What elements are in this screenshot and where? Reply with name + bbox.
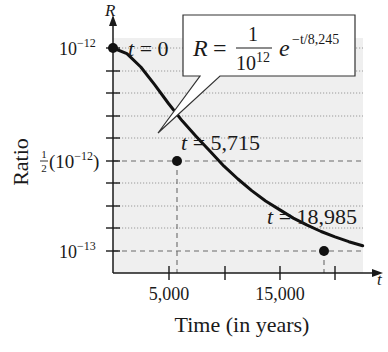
point-label-t5715: t = 5,715: [181, 130, 260, 155]
point-t0: [108, 43, 118, 53]
point-t5715: [172, 156, 182, 166]
x-axis-title: Time (in years): [175, 312, 310, 337]
equation-exponent: −t/8,245: [292, 32, 339, 47]
point-label-t18985: t = 18,985: [267, 204, 357, 229]
equation-equals: =: [213, 35, 227, 61]
svg-text:2: 2: [41, 162, 47, 174]
point-label-t0: t = 0: [128, 36, 169, 61]
svg-text:(10−12): (10−12): [49, 149, 99, 173]
chart-svg: R = 1 1012 e −t/8,245 R t 10−12 1 2 (10−…: [0, 0, 388, 352]
equation-lhs-r: R: [192, 35, 208, 61]
y-tick-label-top: 10−12: [59, 36, 96, 59]
x-tick-label-5000: 5,000: [149, 284, 190, 304]
axis-label-r: R: [104, 1, 116, 20]
point-t18985: [319, 246, 329, 256]
svg-text:1: 1: [41, 148, 47, 160]
equation-e: e: [279, 35, 290, 61]
y-axis-title: Ratio: [8, 138, 33, 186]
equation-numerator: 1: [248, 23, 258, 45]
y-tick-label-half: 1 2 (10−12): [40, 148, 99, 174]
y-tick-label-bottom: 10−13: [59, 239, 96, 262]
x-tick-label-15000: 15,000: [255, 284, 305, 304]
